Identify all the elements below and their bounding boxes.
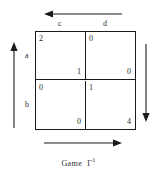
- game-matrix-figure: c d a b 2 1 0 0 0 0 1 4: [0, 0, 157, 176]
- col-payoff: 0: [127, 68, 131, 76]
- row-payoff: 0: [89, 35, 93, 43]
- left-arrow: [8, 42, 20, 128]
- matrix-cell-a-d: 0 0: [86, 32, 135, 80]
- right-arrow: [140, 44, 152, 122]
- bottom-arrow: [44, 135, 122, 147]
- matrix-cell-a-c: 2 1: [36, 32, 86, 80]
- column-label-d: d: [103, 20, 107, 28]
- column-label-c: c: [58, 20, 62, 28]
- figure-caption: GameΓ1: [0, 157, 157, 168]
- col-payoff: 1: [77, 68, 81, 76]
- caption-superscript: 1: [92, 157, 95, 163]
- left-arrow-icon: [8, 42, 20, 128]
- col-payoff: 0: [77, 118, 81, 126]
- top-arrow: [44, 6, 122, 18]
- row-payoff: 2: [39, 35, 43, 43]
- col-payoff: 4: [127, 118, 131, 126]
- caption-word: Game: [61, 159, 82, 168]
- top-arrow-icon: [44, 8, 122, 20]
- right-arrow-icon: [140, 44, 152, 122]
- bottom-arrow-icon: [44, 137, 122, 149]
- matrix-cell-b-c: 0 0: [36, 81, 86, 129]
- row-label-b: b: [25, 101, 29, 109]
- row-payoff: 1: [89, 84, 93, 92]
- matrix-cell-b-d: 1 4: [86, 81, 135, 129]
- row-payoff: 0: [39, 84, 43, 92]
- row-label-a: a: [25, 52, 29, 60]
- payoff-matrix: 2 1 0 0 0 0 1 4: [35, 31, 136, 130]
